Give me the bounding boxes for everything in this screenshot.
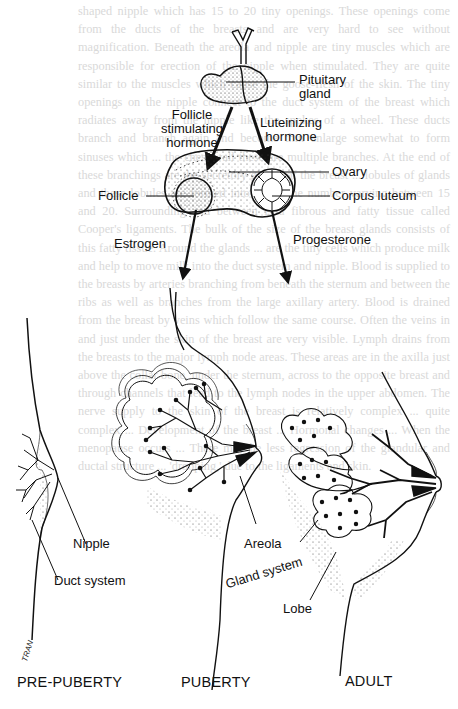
label-estrogen: Estrogen	[114, 237, 166, 251]
stage-label-adult: ADULT	[345, 673, 392, 689]
adult-ducts	[330, 430, 436, 538]
ovary-hormone-arrows	[183, 210, 288, 282]
breast-development-diagram	[0, 0, 458, 709]
label-areola: Areola	[244, 537, 282, 551]
label-pituitary-gland: Pituitary gland	[299, 73, 346, 101]
label-lh-line2: hormone	[253, 130, 329, 144]
label-fsh-line2: stimulating	[152, 122, 232, 136]
puberty-breast	[112, 288, 262, 690]
puberty-outline-left	[175, 292, 184, 350]
stage-label-pre-puberty: PRE-PUBERTY	[17, 674, 122, 690]
pituitary-gland	[201, 28, 295, 104]
label-duct-system: Duct system	[54, 574, 126, 588]
label-fsh-line1: Follicle	[152, 108, 232, 122]
label-progesterone: Progesterone	[293, 233, 371, 247]
stage-label-puberty: PUBERTY	[181, 674, 251, 690]
label-nipple: Nipple	[73, 537, 110, 551]
label-pituitary-line1: Pituitary	[299, 73, 346, 87]
label-fsh: Follicle stimulating hormone	[152, 108, 232, 150]
ovary	[165, 150, 295, 217]
pre-puberty-breast	[16, 318, 86, 640]
adult-breast	[280, 372, 441, 676]
label-fsh-line3: hormone	[152, 136, 232, 150]
label-follicle: Follicle	[98, 189, 138, 203]
label-lobe: Lobe	[283, 602, 312, 616]
puberty-duct-ends	[144, 382, 225, 491]
label-pituitary-line2: gland	[299, 87, 346, 101]
label-lh-line1: Luteinizing	[253, 116, 329, 130]
label-ovary: Ovary	[332, 165, 367, 179]
label-lh: Luteinizing hormone	[253, 116, 329, 144]
label-corpus-luteum: Corpus luteum	[332, 189, 417, 203]
